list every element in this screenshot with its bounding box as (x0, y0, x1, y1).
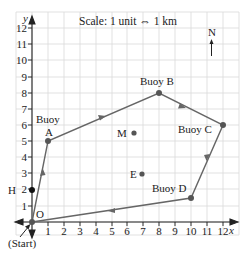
buoy-d-label: Buoy D (152, 182, 187, 194)
coordinate-diagram: 1 2 3 4 5 6 7 8 9 10 11 12 1 2 3 4 5 6 7… (0, 0, 251, 268)
y-tick-label: 6 (22, 119, 28, 131)
y-tick-labels: 1 2 3 4 5 6 7 8 9 10 11 12 (16, 22, 28, 212)
route-path (32, 93, 223, 222)
y-tick-label: 2 (22, 183, 28, 195)
x-tick-label: 10 (186, 225, 198, 237)
buoy-a-marker (45, 138, 51, 144)
x-tick-label: 11 (202, 225, 213, 237)
y-axis-arrow-icon (29, 16, 35, 24)
y-tick-label: 7 (22, 103, 28, 115)
x-tick-label: 7 (140, 225, 146, 237)
buoy-a-label: Buoy (36, 113, 60, 125)
buoy-c-label: Buoy C (178, 123, 212, 135)
y-axis-label: y (22, 12, 28, 24)
point-m-label: M (117, 127, 127, 139)
y-tick-label: 4 (22, 151, 28, 163)
y-tick-label: 11 (16, 38, 27, 50)
origin-marker (29, 219, 35, 225)
y-tick-label: 3 (22, 167, 28, 179)
buoy-d-marker (188, 195, 194, 201)
direction-arrow-icon (40, 168, 46, 176)
start-label: (Start) (8, 237, 36, 250)
x-tick-label: 2 (61, 225, 67, 237)
x-axis-label: x (228, 224, 234, 236)
x-tick-label: 5 (109, 225, 115, 237)
buoy-a-letter: A (45, 126, 53, 138)
y-tick-label: 1 (22, 200, 28, 212)
y-tick-label: 9 (22, 71, 28, 83)
y-tick-label: 8 (22, 87, 28, 99)
point-h-marker (29, 187, 35, 193)
scale-text: Scale: 1 unit ⇔ 1 km (79, 15, 177, 27)
x-tick-label: 6 (124, 225, 130, 237)
point-e-marker (139, 171, 144, 176)
point-m-marker (131, 130, 136, 135)
buoy-points (29, 90, 226, 225)
x-tick-label: 8 (156, 225, 162, 237)
north-arrow-icon (210, 39, 214, 56)
route-direction-markers (40, 103, 210, 213)
point-e-label: E (130, 168, 137, 180)
origin-label: O (36, 208, 44, 220)
buoy-c-marker (220, 122, 226, 128)
x-tick-label: 12 (218, 225, 229, 237)
buoy-b-label: Buoy B (140, 75, 174, 87)
y-tick-label: 5 (22, 135, 28, 147)
buoy-b-marker (156, 90, 162, 96)
x-tick-label: 1 (45, 225, 51, 237)
x-tick-label: 9 (172, 225, 178, 237)
y-tick-label: 10 (16, 54, 28, 66)
x-tick-label: 3 (77, 225, 83, 237)
point-h-label: H (8, 184, 16, 196)
x-tick-label: 4 (93, 225, 99, 237)
north-label: N (208, 26, 216, 38)
